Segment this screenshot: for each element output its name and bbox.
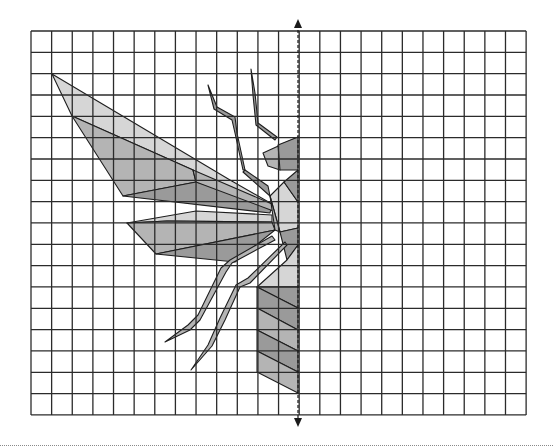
- arrow-up-icon: [294, 19, 302, 28]
- head-right: [278, 137, 298, 170]
- symmetry-grid-diagram: [0, 0, 553, 448]
- page-divider: [0, 445, 553, 446]
- antenna-left: [208, 85, 245, 170]
- antenna-right: [251, 69, 277, 140]
- arrow-down-icon: [294, 418, 302, 427]
- grid: [31, 31, 526, 415]
